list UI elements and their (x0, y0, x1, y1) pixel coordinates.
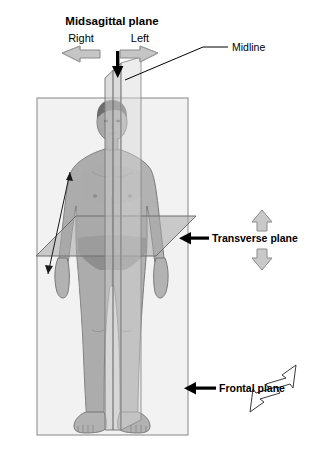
transverse-up-arrow (252, 210, 272, 231)
hand-right (55, 258, 70, 298)
left-label: Left (131, 32, 149, 44)
nipple-right (93, 194, 97, 198)
frontal-pointer-arrow (184, 382, 216, 395)
down-arrow-shaft (116, 51, 119, 68)
midsagittal-plane-surface (105, 57, 141, 430)
hand-left (154, 258, 169, 298)
transverse-up-arrow-shape (252, 210, 272, 231)
anatomical-planes-diagram: Midsagittal plane Right Left Midline Tra… (0, 0, 311, 460)
diagram-canvas: Midsagittal plane Right Left Midline Tra… (0, 0, 311, 460)
frontal-plane-label: Frontal plane (219, 382, 285, 394)
midsagittal-plane-label: Midsagittal plane (65, 15, 158, 27)
transverse-down-arrow (252, 249, 272, 270)
transverse-plane-label: Transverse plane (212, 232, 298, 244)
frontal-pointer-shaft (196, 387, 216, 390)
right-label: Right (68, 32, 94, 44)
midline-label: Midline (232, 41, 265, 53)
midsagittal-plane-depth-face (121, 57, 141, 430)
right-arrow-shape (62, 46, 100, 62)
transverse-pointer-shaft (191, 237, 209, 240)
transverse-down-arrow-shape (252, 249, 272, 270)
right-direction-arrow (62, 46, 100, 62)
